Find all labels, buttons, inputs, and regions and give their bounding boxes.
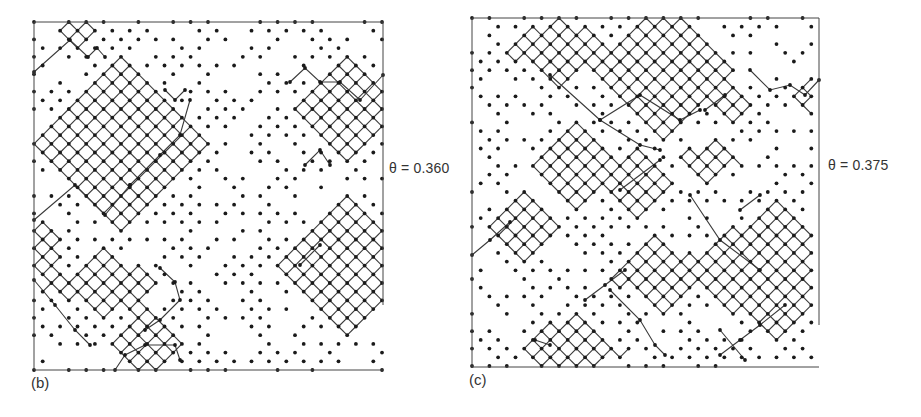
site-layer <box>470 16 821 368</box>
figure-panel-c: θ = 0.375 (c) <box>0 0 921 417</box>
panel-label-c: (c) <box>469 371 487 388</box>
lattice-plot-c <box>0 0 921 417</box>
theta-label-c: θ = 0.375 <box>828 157 889 173</box>
